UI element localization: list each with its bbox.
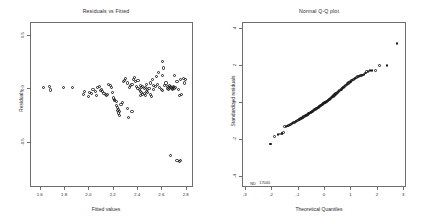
y-tick [27,142,30,143]
data-point [62,86,65,89]
data-point [121,101,124,104]
x-tick [245,187,246,190]
residuals-vs-fitted-title: Residuals vs Fitted [0,8,212,14]
data-point [374,69,377,72]
data-point [157,71,160,74]
x-tick [186,187,187,190]
data-point [371,69,374,72]
x-tick [271,187,272,190]
data-point [162,66,165,69]
data-point [90,92,93,95]
x-tick-label: 2.6 [158,192,164,197]
data-point [161,74,164,77]
data-point [161,60,164,63]
data-point [82,93,85,96]
data-point [147,87,150,90]
y-tick [239,176,242,177]
data-point [133,76,136,79]
data-point [151,78,154,81]
x-tick [403,187,404,190]
y-tick [239,139,242,140]
data-point [127,116,130,119]
x-tick-label: -1 [296,192,300,197]
x-tick [350,187,351,190]
x-tick-label: -3 [243,192,247,197]
residuals-vs-fitted-panel: Residuals vs Fitted 1.61.82.02.22.42.62.… [0,0,212,224]
x-tick-label: 2.2 [110,192,116,197]
data-point [184,78,187,81]
y-tick [27,88,30,89]
x-tick-label: 2.4 [134,192,140,197]
data-point [396,42,399,45]
x-tick-label: 1 [349,192,351,197]
residuals-vs-fitted-plot-area [31,23,192,186]
x-tick [377,187,378,190]
data-point [83,90,86,93]
data-point [173,74,176,77]
data-point [145,83,148,86]
x-tick-label: 1.6 [37,192,43,197]
x-tick [88,187,89,190]
data-point [175,80,178,83]
data-point [118,114,121,117]
data-point [269,143,272,146]
x-tick [64,187,65,190]
normal-qq-plot-area: ND17040 [243,23,405,186]
y-tick [27,35,30,36]
x-tick [324,187,325,190]
y-tick-label: 0.5 [20,30,25,40]
x-tick-label: -2 [269,192,273,197]
data-point [124,77,127,80]
normal-qq-title: Normal Q-Q plot [213,8,425,14]
data-point [71,86,74,89]
data-point [48,85,51,88]
x-tick-label: 1.8 [61,192,67,197]
data-point [152,88,155,91]
x-tick-label: 2 [376,192,378,197]
x-tick [298,187,299,190]
y-tick-label: 4 [232,23,237,33]
data-point [161,89,164,92]
data-point [378,64,381,67]
x-tick [40,187,41,190]
data-point [87,95,90,98]
y-tick [239,65,242,66]
data-point [106,93,109,96]
data-point [183,81,186,84]
data-point [179,159,182,162]
data-point [126,81,129,84]
data-point [144,94,147,97]
data-point [273,135,276,138]
data-point [150,95,153,98]
normal-qq-panel: Normal Q-Q plot ND17040 -3-2-10123420-2-… [213,0,425,224]
data-point [149,81,152,84]
data-point [139,94,142,97]
data-point [180,93,183,96]
data-point [155,75,158,78]
outlier-label: ND [250,181,256,186]
data-point [130,110,133,113]
data-point [115,100,118,103]
normal-qq-xlabel: Theoretical Quantiles [213,206,425,212]
data-point [111,91,114,94]
data-point [126,107,129,110]
normal-qq-ylabel: Standardized residuals [230,61,236,141]
x-tick [113,187,114,190]
y-tick [239,102,242,103]
residuals-vs-fitted-xlabel: Fitted values [0,206,212,212]
normal-qq-frame: ND17040 [242,22,406,187]
data-point [386,64,389,67]
data-point [110,86,113,89]
y-tick [239,28,242,29]
x-tick-label: 2.0 [85,192,91,197]
data-point [177,88,180,91]
x-tick-label: 2.8 [183,192,189,197]
data-point [136,79,139,82]
residuals-vs-fitted-ylabel: Residuals [18,71,24,131]
x-tick [161,187,162,190]
y-tick-label: -0.5 [20,137,25,147]
data-point [169,154,172,157]
data-point [95,94,98,97]
x-tick-label: 3 [402,192,404,197]
x-tick [137,187,138,190]
